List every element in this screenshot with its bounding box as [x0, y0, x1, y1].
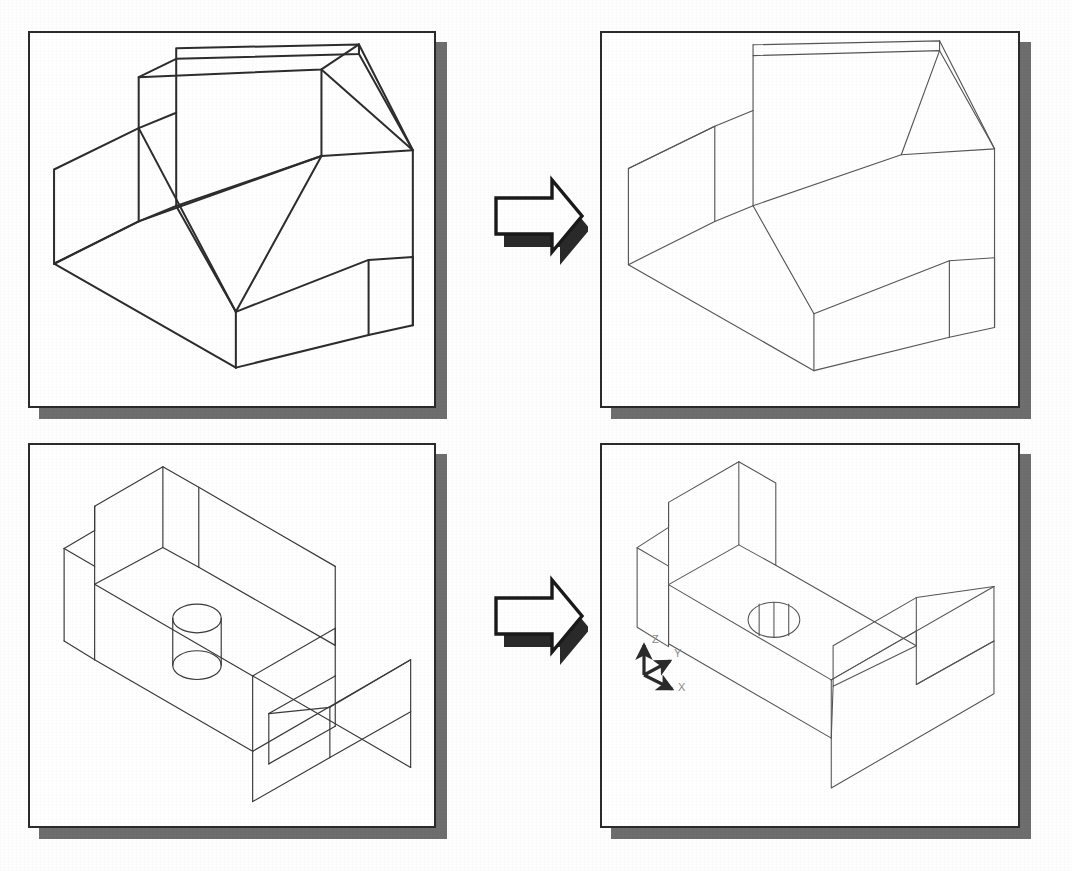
edge-arm-inner-top — [330, 660, 411, 708]
edge-shoulder-visible — [814, 258, 995, 314]
edge-left-lower — [54, 221, 139, 263]
edge-wall-chamfer-top — [95, 467, 163, 507]
edge-notch-visible — [833, 598, 916, 687]
edge-inner-rail-visible — [715, 111, 753, 222]
edge-chamfer-inner-slope — [95, 548, 163, 585]
edge-arm-inner-bottom-visible — [916, 641, 994, 684]
edge-notch-steep — [236, 156, 322, 312]
edge-wall-right-visible — [739, 462, 776, 566]
edge-right-bevel — [359, 54, 413, 325]
edge-slab-top-right-diag — [253, 628, 336, 676]
edge-top-back-ridge — [753, 41, 994, 149]
edge-arm-inner-bottom — [330, 712, 411, 758]
edge-notch-back-visible — [916, 587, 994, 598]
edge-notch-floor — [176, 156, 321, 206]
arrow-right-icon — [482, 172, 588, 268]
hole-top-ellipse — [173, 604, 221, 633]
edge-lower-bevel — [369, 325, 413, 335]
edge-wall-top-back — [199, 487, 335, 566]
axis-label-y: Y — [674, 647, 682, 659]
hole-bottom-ellipse — [173, 651, 221, 680]
panel-wireframe-block-before[interactable] — [28, 31, 436, 408]
edge-wall-base-right — [199, 567, 335, 645]
edge-hidden-bevel — [321, 69, 412, 150]
edge-notch-diagonal — [176, 206, 236, 312]
edge-chamfer-slope-left — [64, 530, 95, 548]
panel-hidden-line-block-after[interactable] — [600, 31, 1020, 408]
figure-root: Z X Y — [0, 0, 1072, 871]
edge-inner-rail — [139, 113, 177, 222]
edge-upper-left-rail — [139, 59, 177, 128]
edge-notch-floor-visible — [753, 51, 940, 206]
axis-x-arrow — [644, 675, 672, 689]
edge-chamfer-inner-visible — [669, 545, 739, 585]
axis-label-z: Z — [652, 633, 659, 645]
edge-left-top — [628, 126, 714, 168]
edge-chamfer-left-visible — [637, 502, 668, 547]
edge-notch-inner-bottom — [269, 726, 335, 764]
axis-y-arrow — [644, 661, 670, 675]
panel-wireframe-bracket-before[interactable] — [28, 443, 436, 828]
edge-slab-top-long — [253, 676, 411, 768]
panel-hidden-line-bracket-after[interactable]: Z X Y — [600, 443, 1020, 828]
edge-wall-top-right — [163, 467, 199, 568]
edge-top-ridge — [176, 44, 359, 58]
edge-right-bevel-top — [359, 44, 413, 150]
edge-base-front-bottom — [95, 660, 253, 752]
hidden-line-block-svg — [602, 33, 1018, 406]
edge-notch-right-visible — [901, 149, 994, 155]
axis-label-x: X — [678, 681, 686, 693]
ucs-axis-icon[interactable]: Z X Y — [626, 617, 716, 707]
silhouette-outline — [628, 51, 994, 371]
edge-notch-right — [321, 150, 412, 156]
edge-arm-front-bottom — [253, 758, 330, 802]
arrow-right-icon — [482, 572, 588, 668]
wireframe-bracket-svg — [30, 445, 434, 826]
edge-wall-right-face — [163, 467, 199, 568]
edge-left-bottom — [64, 641, 95, 660]
edge-notch-front-visible — [753, 206, 814, 371]
wireframe-block-svg — [30, 33, 434, 406]
transform-arrow-top — [482, 172, 588, 268]
edge-bottom-front — [54, 264, 236, 368]
edge-chamfer-hidden-link — [64, 548, 95, 566]
ucs-axis-svg: Z X Y — [626, 617, 716, 707]
transform-arrow-bottom — [482, 572, 588, 668]
